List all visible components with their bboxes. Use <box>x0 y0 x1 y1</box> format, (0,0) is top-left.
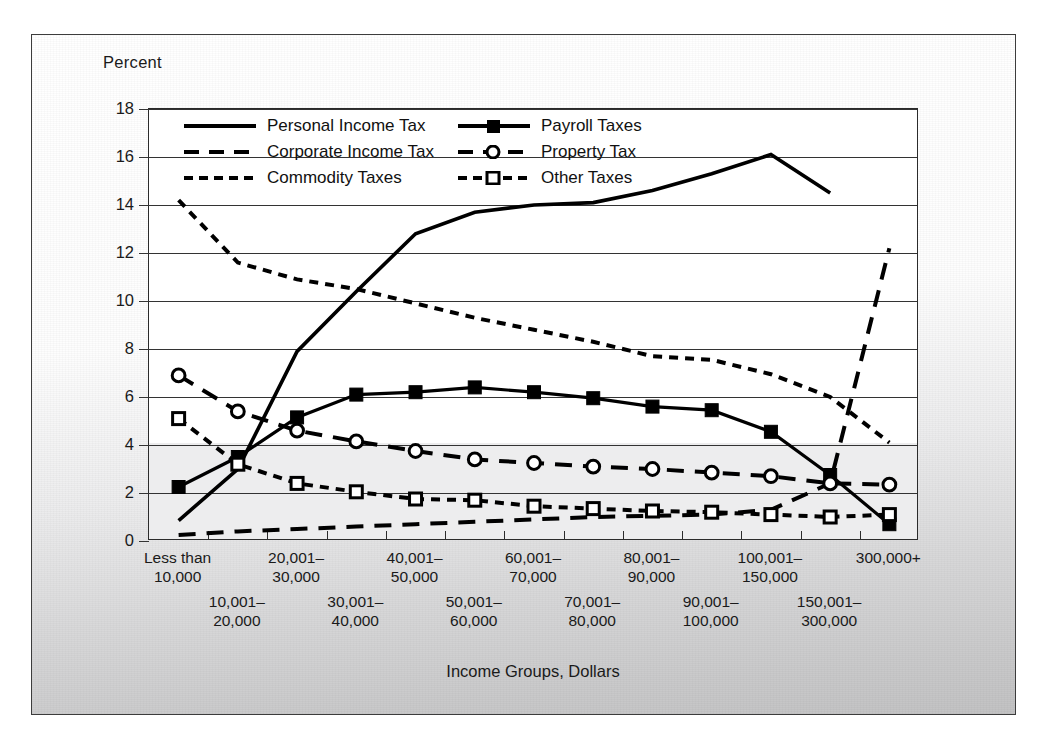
x-axis-tick-label: 60,001–70,000 <box>505 548 561 586</box>
legend-item[interactable]: Commodity Taxes <box>182 165 434 190</box>
series-marker-filled-square <box>468 381 481 394</box>
legend-swatch-long-dashed-line-icon <box>182 145 258 159</box>
x-axis-tick-label: 90,001–100,000 <box>683 592 739 630</box>
series-marker-open-circle <box>824 477 837 490</box>
x-axis-tick-label: 50,001–60,000 <box>446 592 502 630</box>
x-tick-label-line1: 10,001– <box>209 592 265 611</box>
y-axis-tick-label: 0 <box>94 531 134 550</box>
x-tick-label-line1: Less than <box>144 548 211 567</box>
series-marker-open-circle <box>291 424 304 437</box>
y-axis-tick <box>139 301 149 302</box>
y-axis-title: Percent <box>103 53 162 72</box>
x-tick-label-line1: 90,001– <box>683 592 739 611</box>
x-tick-label-line2: 70,000 <box>505 567 561 586</box>
legend-item[interactable]: Personal Income Tax <box>182 113 434 138</box>
y-axis-tick-label: 16 <box>94 147 134 166</box>
legend-item[interactable]: Other Taxes <box>456 165 642 190</box>
legend-item-label: Corporate Income Tax <box>267 142 434 162</box>
legend-item[interactable]: Payroll Taxes <box>456 113 642 138</box>
series-marker-open-circle <box>765 470 778 483</box>
y-axis-tick <box>139 349 149 350</box>
series-marker-open-square <box>646 505 658 517</box>
series-marker-open-circle <box>646 463 659 476</box>
series-marker-open-square <box>350 486 362 498</box>
series-marker-open-circle <box>705 466 718 479</box>
series-marker-open-circle <box>350 435 363 448</box>
series-marker-open-square <box>173 413 185 425</box>
series-line <box>179 155 831 521</box>
x-tick-label-line1: 300,000+ <box>856 548 921 567</box>
series-marker-open-square <box>824 511 836 523</box>
x-tick-label-line2: 150,000 <box>738 567 803 586</box>
series-marker-open-square <box>706 506 718 518</box>
x-axis-tick-label: 100,001–150,000 <box>738 548 803 586</box>
x-tick-label-line2: 50,000 <box>387 567 443 586</box>
y-axis-tick-label: 2 <box>94 483 134 502</box>
y-axis-tick <box>139 253 149 254</box>
y-axis-tick <box>139 493 149 494</box>
x-axis-tick-label: 30,001–40,000 <box>327 592 383 630</box>
series-marker-open-square <box>587 503 599 515</box>
x-tick-label-line1: 80,001– <box>623 548 679 567</box>
x-axis-tick-labels: Less than10,00010,001–20,00020,001–30,00… <box>148 548 918 658</box>
series-marker-open-square <box>469 494 481 506</box>
x-tick-label-line1: 20,001– <box>268 548 324 567</box>
y-axis-tick-label: 10 <box>94 291 134 310</box>
series-marker-open-circle <box>468 453 481 466</box>
x-tick-label-line2: 90,000 <box>623 567 679 586</box>
x-tick-label-line1: 30,001– <box>327 592 383 611</box>
y-axis-tick <box>139 205 149 206</box>
y-axis-tick-label: 4 <box>94 435 134 454</box>
x-axis-tick-label: 70,001–80,000 <box>564 592 620 630</box>
series-marker-open-circle <box>883 478 896 491</box>
x-tick-label-line1: 60,001– <box>505 548 561 567</box>
x-tick-label-line2: 60,000 <box>446 611 502 630</box>
series-line <box>179 200 890 442</box>
y-axis-tick-label: 14 <box>94 195 134 214</box>
x-axis-tick-label: Less than10,000 <box>144 548 211 586</box>
legend-swatch-solid-line-icon <box>182 119 258 133</box>
series-marker-open-square <box>765 509 777 521</box>
y-axis-tick <box>139 157 149 158</box>
series-marker-open-circle <box>231 405 244 418</box>
y-axis-tick <box>139 109 149 110</box>
legend-item[interactable]: Corporate Income Tax <box>182 139 434 164</box>
series-marker-filled-square <box>172 481 185 494</box>
series-marker-open-circle <box>528 457 541 470</box>
x-tick-label-line1: 100,001– <box>738 548 803 567</box>
legend-swatch-short-dashed-line-icon <box>182 171 258 185</box>
x-tick-label-line2: 80,000 <box>564 611 620 630</box>
x-axis-tick-label: 150,001–300,000 <box>797 592 862 630</box>
legend-item-label: Commodity Taxes <box>267 168 402 188</box>
series-marker-open-square <box>883 509 895 521</box>
series-marker-filled-square <box>646 400 659 413</box>
series-marker-open-circle <box>409 445 422 458</box>
x-tick-label-line2: 20,000 <box>209 611 265 630</box>
legend-swatch-long-dashed-line-open-circle-marker-icon <box>456 145 532 159</box>
x-axis-tick-label: 300,000+ <box>856 548 921 567</box>
x-axis-title: Income Groups, Dollars <box>148 662 918 681</box>
chart-legend: Personal Income TaxPayroll TaxesCorporat… <box>182 113 642 190</box>
series-marker-filled-square <box>764 425 777 438</box>
series-marker-open-circle <box>587 460 600 473</box>
x-tick-label-line2: 100,000 <box>683 611 739 630</box>
figure-root: Percent 024681012141618 Less than10,0001… <box>0 0 1043 746</box>
legend-item-label: Other Taxes <box>541 168 632 188</box>
legend-item-label: Personal Income Tax <box>267 116 425 136</box>
y-axis-tick-label: 12 <box>94 243 134 262</box>
series-marker-filled-square <box>291 411 304 424</box>
legend-swatch-solid-line-filled-square-marker-icon <box>456 119 532 133</box>
x-tick-label-line1: 150,001– <box>797 592 862 611</box>
series-marker-filled-square <box>528 386 541 399</box>
series-marker-filled-square <box>587 392 600 405</box>
series-marker-filled-square <box>409 386 422 399</box>
series-marker-open-square <box>410 493 422 505</box>
x-tick-label-line1: 40,001– <box>387 548 443 567</box>
x-tick-label-line1: 70,001– <box>564 592 620 611</box>
legend-item-label: Payroll Taxes <box>541 116 642 136</box>
y-axis-tick <box>139 397 149 398</box>
legend-item-label: Property Tax <box>541 142 636 162</box>
legend-swatch-short-dashed-line-open-square-marker-icon <box>456 171 532 185</box>
legend-item[interactable]: Property Tax <box>456 139 642 164</box>
y-axis-tick <box>139 541 149 542</box>
